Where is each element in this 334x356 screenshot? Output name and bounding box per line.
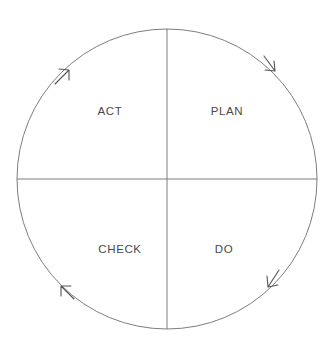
quadrant-label-act: ACT — [98, 105, 123, 117]
arrow-top-right-icon — [264, 56, 275, 71]
quadrant-label-plan: PLAN — [211, 105, 243, 117]
pdca-cycle-diagram: ACT PLAN CHECK DO — [0, 0, 334, 356]
arrow-bottom-left-icon — [61, 286, 74, 299]
quadrant-label-check: CHECK — [98, 243, 141, 255]
quadrant-label-do: DO — [215, 243, 233, 255]
